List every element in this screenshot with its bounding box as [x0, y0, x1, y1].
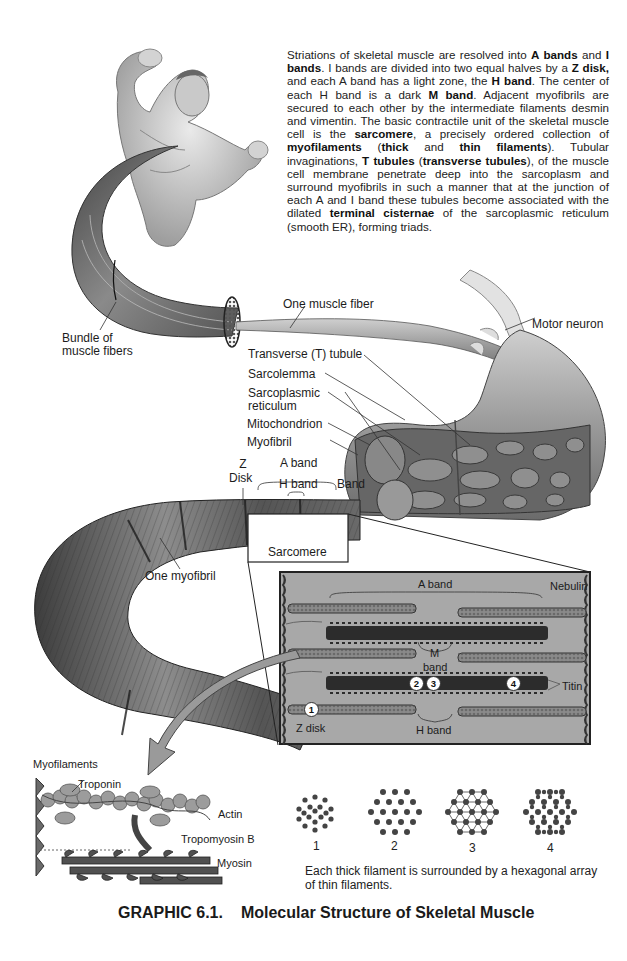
bodybuilder-figure	[117, 49, 268, 246]
label-myosin: Myosin	[217, 857, 252, 869]
hex-label-3: 3	[469, 841, 476, 855]
marker-2: 2	[409, 676, 424, 691]
inset-label-z-disk: Z disk	[296, 722, 325, 734]
label-sarcomere: Sarcomere	[268, 546, 327, 559]
paragraph-text: (	[362, 140, 382, 153]
inset-label-h-band: H band	[416, 724, 451, 736]
paragraph-text: and	[408, 140, 459, 153]
label-z-line1: Z	[236, 458, 250, 471]
hexagonal-arrays	[296, 789, 577, 835]
label-troponin: Troponin	[78, 778, 121, 790]
bold-term: sarcomere	[354, 127, 413, 140]
label-mitochondrion: Mitochondrion	[247, 418, 322, 431]
label-sarcoplasmic-reticulum: Sarcoplasmic reticulum	[248, 387, 320, 413]
bold-term: thick	[381, 140, 408, 153]
label-one-myofibril: One myofibril	[145, 570, 216, 583]
bold-term: A bands	[531, 48, 578, 61]
caption-number: GRAPHIC 6.1.	[118, 904, 223, 922]
label-a-band: A band	[280, 457, 317, 470]
label-myofilaments: Myofilaments	[33, 758, 98, 770]
paragraph-text: (	[415, 154, 423, 167]
bold-term: H band	[492, 74, 532, 87]
hex-label-1: 1	[313, 839, 320, 853]
inset-label-band: band	[423, 661, 447, 673]
label-sarcoplasmic-line2: reticulum	[248, 400, 320, 413]
label-bundle-line2: muscle fibers	[62, 345, 133, 358]
label-sarcolemma: Sarcolemma	[248, 368, 315, 381]
label-motor-neuron: Motor neuron	[532, 318, 603, 331]
bold-term: thin filaments	[459, 140, 547, 153]
paragraph-text: Striations of skeletal muscle are resolv…	[287, 48, 531, 61]
label-bundle: Bundle of muscle fibers	[62, 332, 133, 358]
inset-label-nebulin: Nebulin	[550, 580, 587, 592]
paragraph-text: and	[578, 48, 606, 61]
bold-term: M band	[428, 88, 473, 101]
label-tropomyosin: Tropomyosin B	[181, 833, 255, 845]
description-paragraph: Striations of skeletal muscle are resolv…	[287, 48, 609, 233]
label-actin: Actin	[218, 808, 242, 820]
marker-4: 4	[506, 676, 521, 691]
inset-label-titin: Titin	[562, 680, 582, 692]
marker-1: 1	[304, 702, 319, 717]
inset-label-a-band: A band	[418, 578, 452, 590]
label-i-band: Band	[337, 478, 365, 491]
hexagonal-note: Each thick filament is surrounded by a h…	[305, 864, 605, 892]
bold-term: terminal cisternae	[330, 206, 435, 219]
muscle-fiber-cross-section	[345, 330, 606, 520]
label-z-disk: Z	[236, 458, 250, 471]
caption-title: Molecular Structure of Skeletal Muscle	[241, 904, 534, 921]
hex-label-4: 4	[547, 841, 554, 855]
bold-term: myofilaments	[287, 140, 362, 153]
bold-term: T tubules	[362, 154, 415, 167]
inset-label-m: M	[430, 647, 439, 659]
label-disk: Disk	[229, 472, 252, 485]
bold-term: Z disk,	[572, 61, 609, 74]
label-h-band: H band	[279, 478, 318, 491]
figure-caption: GRAPHIC 6.1.Molecular Structure of Skele…	[118, 904, 534, 922]
hex-label-2: 2	[391, 839, 398, 853]
bold-term: transverse tubules	[423, 154, 527, 167]
paragraph-text: , a precisely ordered collection of	[413, 127, 609, 140]
label-myofibril: Myofibril	[247, 436, 292, 449]
paragraph-text: and each A band has a light zone, the	[287, 74, 492, 87]
label-one-muscle-fiber: One muscle fiber	[283, 298, 374, 311]
paragraph-text: . I bands are divided into two equal hal…	[321, 61, 572, 74]
label-t-tubule: Transverse (T) tubule	[248, 348, 362, 361]
myofilaments-detail	[36, 778, 222, 884]
marker-3: 3	[426, 676, 441, 691]
